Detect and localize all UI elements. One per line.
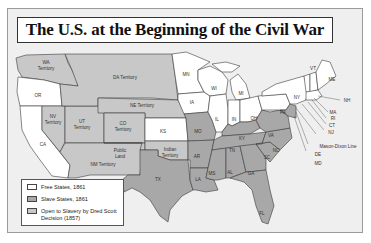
label-fl: FL — [259, 211, 265, 216]
label-wi: WI — [211, 86, 217, 91]
label-ks: KS — [160, 129, 166, 134]
label-mo: MO — [194, 129, 202, 134]
label-pa: PA — [280, 110, 287, 115]
label-ut: UT — [79, 119, 85, 124]
label-sc: SC — [264, 155, 271, 160]
label-co: CO — [120, 121, 127, 126]
label-ar: AR — [194, 154, 201, 159]
label-indian-1: Indian — [164, 147, 177, 152]
label-nj: NJ — [328, 130, 334, 135]
label-in: IN — [232, 117, 237, 122]
region-ma — [306, 90, 322, 100]
label-wa: WA — [42, 60, 50, 65]
region-fl — [230, 170, 274, 224]
legend-label-slave: Slave States, 1861 — [41, 196, 88, 202]
label-ms: MS — [209, 171, 216, 176]
label-wa-territory: Territory — [38, 66, 55, 71]
label-al: AL — [227, 170, 233, 175]
label-nh: NH — [344, 98, 351, 103]
label-oh: OH — [251, 116, 258, 121]
region-ks — [145, 118, 188, 141]
open-swatch-icon — [27, 208, 37, 214]
label-da-territory: DA Territory — [113, 75, 138, 80]
region-in — [228, 100, 240, 126]
label-vt: VT — [310, 66, 316, 71]
label-mn: MN — [182, 72, 189, 77]
region-nm-territory — [60, 143, 142, 178]
label-indian-2: Territory — [162, 153, 179, 158]
legend-label-open: Open to Slavery by Dred Scott Decision (… — [41, 208, 122, 221]
legend: Free States, 1861 Slave States, 1861 Ope… — [21, 179, 124, 226]
legend-item-slave: Slave States, 1861 — [27, 196, 88, 202]
legend-label-free: Free States, 1861 — [41, 184, 85, 190]
label-ky: KY — [239, 136, 245, 141]
label-il: IL — [215, 117, 219, 122]
label-ct: CT — [329, 123, 335, 128]
label-de: DE — [315, 152, 321, 157]
label-public-land-2: Land — [115, 154, 126, 159]
label-ga: GA — [248, 171, 256, 176]
label-ca: CA — [40, 142, 47, 147]
label-nv-territory: Territory — [45, 120, 62, 125]
label-nv: NV — [50, 114, 57, 119]
label-public-land-1: Public — [114, 148, 127, 153]
legend-item-free: Free States, 1861 — [27, 184, 85, 190]
free-swatch-icon — [27, 184, 37, 190]
label-ma: MA — [330, 110, 338, 115]
label-ne-territory: NE Territory — [130, 103, 155, 108]
label-ri: RI — [331, 116, 336, 121]
label-mi: MI — [238, 91, 243, 96]
label-la: LA — [195, 177, 202, 182]
label-me: ME — [329, 77, 336, 82]
region-mi — [230, 74, 250, 100]
label-ut-territory: Territory — [74, 125, 91, 130]
label-or: OR — [35, 93, 43, 98]
label-md: MD — [314, 161, 322, 166]
label-nm-territory: NM Territory — [91, 162, 117, 167]
label-mason-dixon: Mason-Dixon Line — [319, 144, 356, 149]
region-me — [316, 60, 336, 90]
region-pa — [258, 94, 290, 110]
label-tn: TN — [229, 148, 235, 153]
region-da-territory — [60, 54, 178, 106]
label-nc: NC — [273, 148, 280, 153]
label-va: VA — [268, 133, 275, 138]
slave-swatch-icon — [27, 196, 37, 202]
label-tx: TX — [155, 177, 161, 182]
legend-item-open: Open to Slavery by Dred Scott Decision (… — [27, 208, 122, 221]
label-ny: NY — [294, 95, 300, 100]
label-co-territory: Territory — [115, 127, 132, 132]
